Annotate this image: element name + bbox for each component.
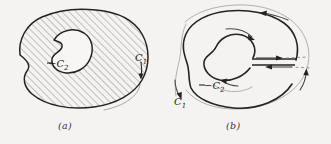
panel-a-inner-contour-label-sub: 2: [64, 64, 68, 72]
panel-b-graphic: [0, 0, 331, 144]
panel-a-inner-contour-label: −C2: [48, 58, 69, 72]
panel-b-cut-arrow-outbound-icon: [256, 55, 283, 60]
panel-a-outer-contour-label-sub: 1: [143, 58, 147, 66]
panel-b-inner-contour-label-sub: 2: [220, 86, 224, 94]
panel-b-cross-cut: [252, 59, 296, 65]
panel-b-outer-contour-label-sub: 1: [182, 102, 186, 110]
panel-b-inner-contour-label: −C2: [204, 80, 225, 94]
panel-b-c1-arrow-right-icon: [300, 69, 309, 91]
figure-root: −C2 C1 −C2 C1 (a) (b): [0, 0, 331, 144]
panel-b-inner-contour-label-text: −C: [204, 80, 220, 91]
panel-b-outer-contour-label-text: C: [174, 96, 182, 107]
panel-a-outer-contour-label-text: C: [135, 52, 143, 63]
panel-a-outer-contour-label: C1: [135, 52, 147, 66]
caption-b: (b): [226, 120, 240, 131]
panel-b-left-guide-curve: [175, 24, 186, 96]
panel-b-inner-contour-c2: [204, 34, 255, 80]
panel-a-inner-contour-label-text: −C: [48, 58, 64, 69]
caption-a: (a): [58, 120, 72, 131]
panel-b-outer-contour-label: C1: [174, 96, 186, 110]
